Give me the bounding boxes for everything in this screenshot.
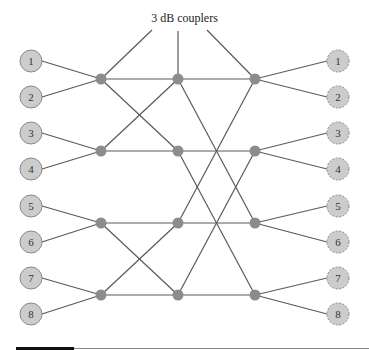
- coupler-dot: [250, 218, 261, 229]
- output-port-label: 1: [335, 55, 341, 67]
- caption-pointer-line: [207, 30, 255, 79]
- bottom-rule-light: [74, 348, 369, 349]
- input-link-line: [42, 206, 101, 223]
- input-port-label: 5: [28, 200, 34, 212]
- input-link-line: [42, 223, 101, 242]
- output-port-label: 8: [335, 308, 341, 320]
- output-link-line: [255, 133, 327, 151]
- output-link-line: [255, 278, 327, 295]
- coupler-dot: [96, 218, 107, 229]
- input-port-label: 4: [28, 163, 34, 175]
- input-link-line: [42, 278, 101, 295]
- coupler-network-diagram: 12345678 12345678: [0, 0, 369, 350]
- input-port-label: 2: [28, 91, 34, 103]
- input-link-line: [42, 295, 101, 314]
- input-link-line: [42, 151, 101, 169]
- input-link-line: [42, 61, 101, 79]
- output-port-label: 4: [335, 163, 341, 175]
- coupler-dot: [96, 146, 107, 157]
- output-link-line: [255, 61, 327, 79]
- output-port-label: 3: [335, 127, 341, 139]
- connection-lines: [42, 30, 327, 314]
- coupler-dot: [250, 146, 261, 157]
- coupler-dot: [250, 74, 261, 85]
- caption-pointer-line: [101, 30, 152, 79]
- coupler-dot: [173, 146, 184, 157]
- output-link-line: [255, 223, 327, 242]
- input-port-label: 7: [28, 272, 34, 284]
- input-port-label: 8: [28, 308, 34, 320]
- output-link-line: [255, 151, 327, 169]
- input-link-line: [42, 133, 101, 151]
- input-port-label: 3: [28, 127, 34, 139]
- coupler-dot: [173, 74, 184, 85]
- output-link-line: [255, 79, 327, 97]
- output-port-label: 2: [335, 91, 341, 103]
- output-port-label: 5: [335, 200, 341, 212]
- input-ports: 12345678: [20, 50, 42, 325]
- input-port-label: 1: [28, 55, 34, 67]
- output-port-label: 6: [335, 236, 341, 248]
- coupler-dot: [96, 290, 107, 301]
- input-port-label: 6: [28, 236, 34, 248]
- coupler-dot: [250, 290, 261, 301]
- coupler-dot: [173, 290, 184, 301]
- output-port-label: 7: [335, 272, 341, 284]
- output-ports: 12345678: [327, 50, 349, 325]
- coupler-dot: [173, 218, 184, 229]
- coupler-dot: [96, 74, 107, 85]
- output-link-line: [255, 295, 327, 314]
- input-link-line: [42, 79, 101, 97]
- output-link-line: [255, 206, 327, 223]
